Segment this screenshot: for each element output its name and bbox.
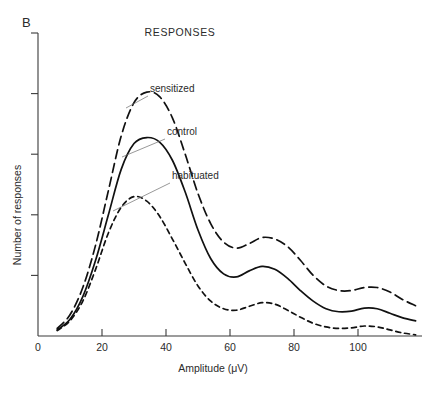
x-tick-label-3: 60 xyxy=(224,341,236,353)
series-label-sensitized: sensitized xyxy=(150,83,194,94)
x-tick-label-4: 80 xyxy=(288,341,300,353)
axes xyxy=(38,33,422,336)
annotation-leader-lines xyxy=(113,96,170,211)
leader-line-habituated xyxy=(113,183,170,211)
curve-sensitized xyxy=(57,92,415,329)
responses-chart: B RESPONSES 020406080100 Amplitude (μV) … xyxy=(0,0,440,393)
curve-control xyxy=(57,137,415,329)
x-axis-ticks xyxy=(102,329,358,336)
y-axis-title: Number of responses xyxy=(11,165,23,265)
series-label-control: control xyxy=(167,126,197,137)
x-axis-title: Amplitude (μV) xyxy=(178,362,248,374)
x-tick-label-5: 100 xyxy=(349,341,367,353)
x-tick-label-0: 0 xyxy=(35,341,41,353)
y-axis-ticks xyxy=(31,33,38,275)
x-tick-label-1: 20 xyxy=(96,341,108,353)
figure-panel: B RESPONSES 020406080100 Amplitude (μV) … xyxy=(0,0,440,393)
x-axis-tick-labels: 020406080100 xyxy=(35,341,367,353)
leader-line-control xyxy=(122,139,165,157)
data-curves xyxy=(57,92,415,335)
x-tick-label-2: 40 xyxy=(160,341,172,353)
chart-title: RESPONSES xyxy=(145,26,216,38)
curve-habituated xyxy=(57,196,415,334)
panel-letter: B xyxy=(22,15,31,30)
series-label-habituated: habituated xyxy=(172,170,219,181)
